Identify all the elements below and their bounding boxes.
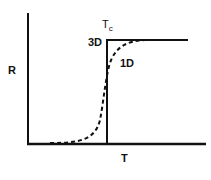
curve-1d [50, 40, 145, 143]
label-3d: 3D [88, 37, 102, 48]
curve-3d [28, 40, 188, 144]
label-tc: Tc [102, 19, 113, 33]
tc-subscript: c [109, 24, 113, 33]
y-axis-label: R [8, 65, 16, 76]
label-1d: 1D [120, 58, 134, 69]
x-axis-label: T [121, 153, 128, 164]
tc-text: T [102, 18, 109, 30]
